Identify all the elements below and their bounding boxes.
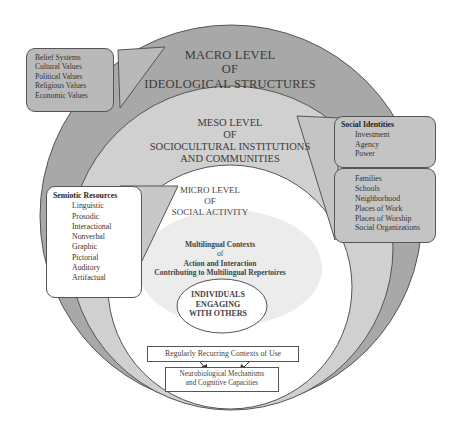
list-item: Families — [355, 174, 435, 184]
institutions-box: Families Schools Neighborhood Places of … — [334, 168, 436, 243]
list-item: Religious Values — [35, 81, 113, 90]
meso-title-line: OF — [120, 129, 340, 141]
neuro-line: and Cognitive Capacities — [166, 379, 278, 388]
macro-title-line: IDEOLOGICAL STRUCTURES — [130, 77, 330, 91]
list-item: Social Organizations — [355, 223, 435, 233]
macro-level-title: MACRO LEVEL OF IDEOLOGICAL STRUCTURES — [130, 48, 330, 91]
ideological-values-box: Belief Systems Cultural Values Political… — [26, 48, 114, 112]
individuals-line: WITH OTHERS — [178, 309, 258, 319]
neurobiological-box: Neurobiological Mechanisms and Cognitive… — [165, 367, 279, 392]
list-item: Agency — [341, 140, 435, 150]
micro-level-title: MICRO LEVEL OF SOCIAL ACTIVITY — [150, 185, 270, 217]
micro-title-line: OF — [150, 196, 270, 207]
list-item: Belief Systems — [35, 53, 113, 62]
contexts-line: Contributing to Multilingual Repertoires — [120, 268, 320, 277]
individuals-line: INDIVIDUALS — [178, 290, 258, 300]
recurring-contexts-label: Regularly Recurring Contexts of Use — [165, 349, 281, 358]
individuals-label: INDIVIDUALS ENGAGING WITH OTHERS — [178, 290, 258, 319]
macro-title-line: OF — [130, 62, 330, 76]
list-item: Power — [341, 149, 435, 159]
meso-title-line: MESO LEVEL — [120, 117, 340, 129]
meso-title-line: AND COMMUNITIES — [120, 153, 340, 165]
social-identities-box: Social Identities Investment Agency Powe… — [334, 116, 436, 168]
list-item: Economic Values — [35, 91, 113, 100]
individuals-line: ENGAGING — [178, 300, 258, 310]
social-identities-heading: Social Identities — [341, 120, 435, 130]
multilingual-contexts-label: Multilingual Contexts of Action and Inte… — [120, 240, 320, 278]
list-item: Cultural Values — [35, 62, 113, 71]
list-item: Prosodic — [72, 212, 141, 222]
list-item: Places of Worship — [355, 214, 435, 224]
list-item: Neighborhood — [355, 194, 435, 204]
contexts-line: Multilingual Contexts — [120, 240, 320, 249]
contexts-line: Action and Interaction — [120, 259, 320, 268]
semiotic-resources-heading: Semiotic Resources — [53, 191, 141, 201]
micro-title-line: SOCIAL ACTIVITY — [150, 207, 270, 218]
contexts-line: of — [120, 249, 320, 258]
list-item: Places of Work — [355, 204, 435, 214]
list-item: Interactional — [72, 222, 141, 232]
list-item: Schools — [355, 184, 435, 194]
macro-title-line: MACRO LEVEL — [130, 48, 330, 62]
micro-title-line: MICRO LEVEL — [150, 185, 270, 196]
recurring-contexts-box: Regularly Recurring Contexts of Use — [147, 346, 299, 362]
list-item: Linguistic — [72, 201, 141, 211]
list-item: Investment — [341, 130, 435, 140]
neuro-line: Neurobiological Mechanisms — [166, 370, 278, 379]
meso-level-title: MESO LEVEL OF SOCIOCULTURAL INSTITUTIONS… — [120, 117, 340, 165]
list-item: Political Values — [35, 72, 113, 81]
meso-title-line: SOCIOCULTURAL INSTITUTIONS — [120, 141, 340, 153]
